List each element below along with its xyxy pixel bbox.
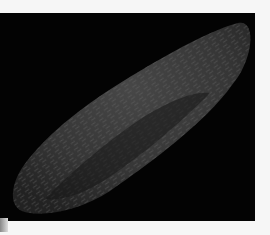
edge-smudge [0, 218, 8, 232]
specimen-illustration [0, 13, 255, 221]
specimen-body [13, 23, 250, 214]
micrograph-frame [0, 13, 255, 221]
